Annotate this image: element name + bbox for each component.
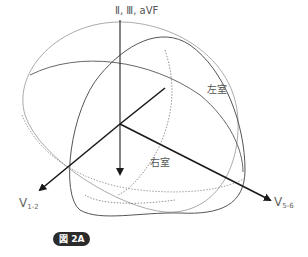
label-v56-sub: 5-6 (282, 202, 293, 210)
heart-axis-diagram (0, 0, 308, 257)
label-v12-main: V (19, 196, 27, 210)
label-left-ventricle: 左室 (207, 85, 227, 95)
dotted-septum (118, 50, 172, 195)
figure-badge: 図 2A (53, 232, 90, 246)
axis-v12 (40, 124, 120, 190)
label-v56-main: V (274, 195, 282, 209)
label-v56: V5-6 (274, 196, 294, 210)
outer-ellipse (23, 22, 238, 212)
label-v12: V1-2 (19, 197, 39, 211)
inner-ellipse (70, 37, 245, 216)
dotted-bottom (85, 195, 175, 203)
label-v12-sub: 1-2 (27, 203, 38, 211)
label-lead-ii-iii-avf: Ⅱ, Ⅲ, aVF (115, 6, 158, 16)
label-right-ventricle: 右室 (150, 158, 170, 168)
ventricle-arc-upper (30, 61, 243, 172)
axis-to-lv (120, 88, 165, 124)
dotted-lower (22, 115, 245, 192)
axis-v56 (120, 124, 270, 200)
